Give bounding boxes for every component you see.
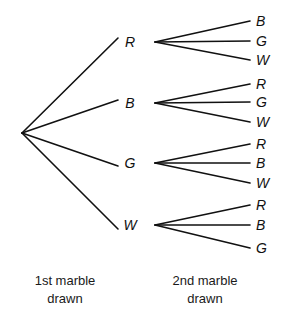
branch-root-to-g-2 xyxy=(22,133,118,166)
branch-g-to-w xyxy=(155,163,250,183)
stage2-leaf-w-r: R xyxy=(256,198,272,212)
stage2-caption-line2: drawn xyxy=(172,290,237,308)
stage2-leaf-r-b: B xyxy=(256,14,272,28)
branch-g-to-r xyxy=(155,144,250,163)
branch-w-to-g xyxy=(155,225,250,248)
branch-r-to-b xyxy=(155,21,250,42)
stage2-leaf-g-r: R xyxy=(256,137,272,151)
branch-root-to-w-3 xyxy=(22,133,118,229)
branch-b-to-w xyxy=(155,103,250,122)
stage2-leaf-r-g: G xyxy=(256,34,272,48)
stage1-node-r: R xyxy=(122,35,138,49)
stage2-leaf-b-r: R xyxy=(256,77,272,91)
stage1-node-w: W xyxy=(122,218,138,232)
tree-branch-lines xyxy=(0,0,283,316)
branch-r-to-g xyxy=(155,41,250,42)
stage2-leaf-w-b: B xyxy=(256,218,272,232)
stage2-leaf-g-w: W xyxy=(256,176,272,190)
stage2-leaf-w-g: G xyxy=(256,241,272,255)
branch-b-to-r xyxy=(155,84,250,103)
stage2-caption-line1: 2nd marble xyxy=(172,272,237,290)
stage1-caption: 1st marble drawn xyxy=(35,272,96,308)
branch-r-to-w xyxy=(155,42,250,60)
stage1-caption-line1: 1st marble xyxy=(35,272,96,290)
stage1-node-g: G xyxy=(122,156,138,170)
branch-root-to-r-0 xyxy=(22,38,118,133)
stage2-caption: 2nd marble drawn xyxy=(172,272,237,308)
branch-root-to-b-1 xyxy=(22,100,118,133)
stage1-node-b: B xyxy=(122,96,138,110)
stage2-leaf-b-w: W xyxy=(256,115,272,129)
branch-w-to-r xyxy=(155,205,250,225)
stage2-leaf-g-b: B xyxy=(256,156,272,170)
probability-tree-diagram: RBGWBGWRGWRBWRBG 1st marble drawn 2nd ma… xyxy=(0,0,283,316)
stage1-caption-line2: drawn xyxy=(35,290,96,308)
stage2-leaf-b-g: G xyxy=(256,95,272,109)
branch-b-to-g xyxy=(155,102,250,103)
stage2-leaf-r-w: W xyxy=(256,53,272,67)
